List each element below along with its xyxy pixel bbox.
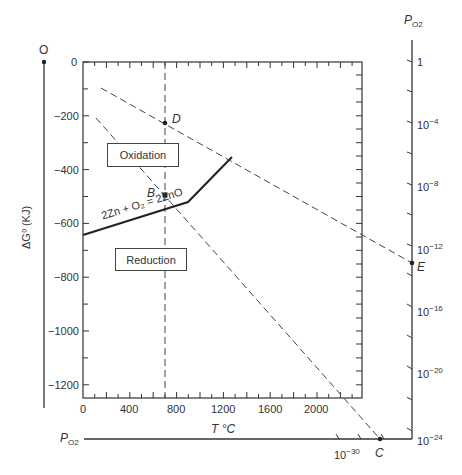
x-tick-label-0: 0	[80, 404, 86, 415]
right-tick-1e-24: 10−24	[417, 434, 443, 447]
y-tick-label-6: −1200	[48, 380, 79, 391]
dashed-line-d-e	[101, 88, 412, 263]
x-axis-label: T °C	[211, 423, 235, 435]
plot-frame	[83, 62, 362, 398]
bottom-po2-p: P	[60, 431, 68, 445]
bottom-po2-sub: O2	[68, 438, 79, 447]
point-e	[410, 261, 415, 266]
y-tick-label-4: −800	[54, 272, 79, 283]
right-tick-1: 1	[417, 57, 423, 68]
y-axis-label: ΔG⁰ (KJ)	[21, 198, 32, 258]
right-po2-label: PO2	[404, 14, 423, 29]
right-po2-p: P	[404, 13, 412, 27]
right-po2-ticks	[407, 60, 412, 431]
right-tick-1e-8: 10−8	[417, 180, 438, 193]
origin-point	[42, 60, 46, 64]
y-tick-label-2: −400	[54, 165, 79, 176]
point-d-label: D	[172, 113, 181, 125]
point-d	[163, 121, 168, 126]
right-tick-1e-12: 10−12	[417, 243, 443, 256]
right-tick-1e-4: 10−4	[417, 118, 438, 131]
point-c	[378, 437, 383, 442]
reduction-region-label: Reduction	[115, 248, 187, 271]
x-tick-label-4: 1600	[258, 404, 282, 415]
y-tick-label-5: −1000	[48, 326, 79, 337]
y-tick-label-3: −600	[54, 218, 79, 229]
x-tick-label-5: 2000	[304, 404, 328, 415]
x-tick-label-2: 800	[167, 404, 185, 415]
point-c-label: C	[375, 447, 384, 459]
bottom-tick-1e-30: 10−30	[334, 448, 360, 461]
y-ticks	[83, 62, 362, 385]
y-tick-label-1: −200	[54, 111, 79, 122]
x-tick-label-1: 400	[120, 404, 138, 415]
origin-label: O	[39, 44, 48, 56]
x-ticks	[95, 62, 352, 398]
point-e-label: E	[417, 261, 425, 273]
right-tick-1e-16: 10−16	[417, 305, 443, 318]
x-tick-label-3: 1200	[211, 404, 235, 415]
oxidation-region-label: Oxidation	[107, 143, 179, 167]
right-po2-sub: O2	[412, 20, 423, 29]
right-tick-1e-20: 10−20	[417, 367, 443, 380]
y-tick-label-0: 0	[71, 57, 77, 68]
bottom-po2-label: PO2	[60, 432, 79, 447]
